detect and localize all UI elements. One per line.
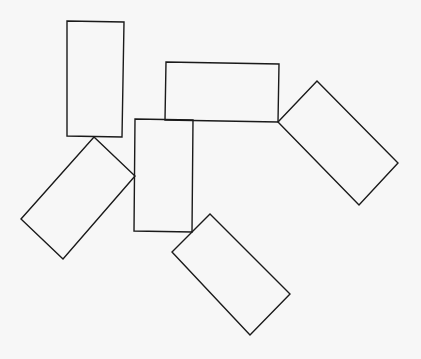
rect-left-rotated xyxy=(21,137,135,259)
rect-top-horizontal xyxy=(165,62,279,122)
rect-center-vertical xyxy=(134,119,193,232)
diagram-canvas xyxy=(0,0,421,359)
rect-top-left-vertical xyxy=(67,21,124,137)
rect-right-rotated xyxy=(278,81,398,205)
